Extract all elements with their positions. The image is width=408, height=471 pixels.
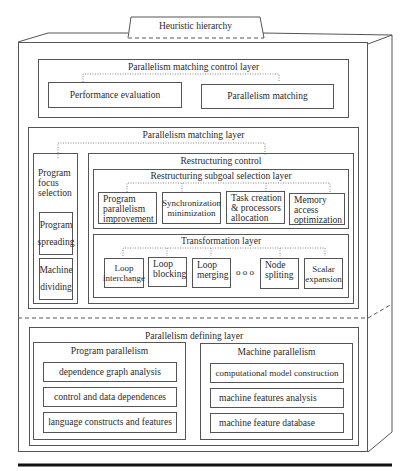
transformation-layer-title: Transformation layer bbox=[93, 236, 349, 247]
program-parallelism-title: Program parallelism bbox=[33, 346, 186, 357]
machine-parallelism-title: Machine parallelism bbox=[200, 347, 353, 358]
control-layer-title: Parallelism matching control layer bbox=[38, 62, 349, 73]
memory-access-optimization-box: Memoryaccessoptimization bbox=[289, 193, 345, 225]
program-parallelism-improvement-box: Programparallelismimprovement bbox=[98, 192, 157, 224]
heuristic-hierarchy-title: Heuristic hierarchy bbox=[131, 21, 260, 32]
machine-features-analysis-box: machine features analysis bbox=[210, 388, 344, 408]
node-spliting-box: Nodespliting bbox=[260, 258, 299, 289]
loop-merging-box: Loopmerging bbox=[192, 258, 231, 288]
scalar-expansion-box: Scalarexpansion bbox=[304, 258, 343, 289]
loop-blocking-box: Loopblocking bbox=[148, 257, 187, 287]
control-data-dependences-box: control and data dependences bbox=[43, 387, 177, 407]
task-creation-allocation-box: Task creation& processorsallocation bbox=[226, 191, 285, 224]
defining-layer-title: Parallelism defining layer bbox=[29, 331, 359, 342]
performance-evaluation-box: Performance evaluation bbox=[48, 82, 182, 108]
program-focus-selection-title: Program focus selection bbox=[38, 168, 72, 198]
loop-interchange-box: Loopinterchange bbox=[104, 258, 144, 288]
language-constructs-box: language constructs and features bbox=[43, 412, 177, 433]
synchronization-minimization-box: Synchronizationminimization bbox=[162, 192, 221, 224]
more-transformations-ellipsis: o o o bbox=[232, 267, 258, 278]
matching-layer-title: Parallelism matching layer bbox=[28, 130, 359, 141]
parallelism-matching-box: Parallelism matching bbox=[201, 84, 334, 109]
program-spreading-box: Programspreading bbox=[39, 212, 73, 255]
machine-dividing-box: Machinedividing bbox=[39, 258, 73, 300]
dependence-graph-analysis-box: dependence graph analysis bbox=[43, 362, 177, 382]
machine-feature-database-box: machine feature database bbox=[210, 413, 344, 433]
computational-model-construction-box: computational model construction bbox=[210, 363, 344, 383]
restructuring-control-title: Restructuring control bbox=[88, 156, 354, 167]
subgoal-selection-layer-title: Restructuring subgoal selection layer bbox=[93, 171, 349, 182]
